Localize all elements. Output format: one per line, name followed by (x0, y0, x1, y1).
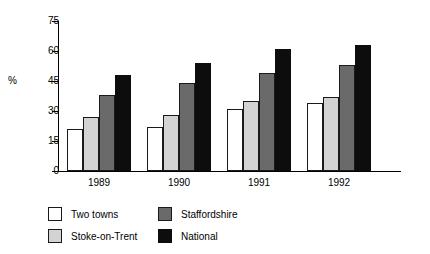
bar-group (227, 21, 291, 171)
bar-group (67, 21, 131, 171)
y-tick: 60 (0, 46, 59, 56)
y-tick-mark (52, 51, 59, 52)
bar (339, 65, 355, 171)
x-tick-label: 1992 (304, 177, 374, 188)
bar (259, 73, 275, 171)
bar (147, 127, 163, 171)
bar-group (307, 21, 371, 171)
bar (243, 101, 259, 171)
y-tick-mark (52, 141, 59, 142)
x-axis-line (58, 171, 401, 172)
legend-item: Stoke-on-Trent (48, 228, 137, 244)
y-tick: 30 (0, 106, 59, 116)
bar (83, 117, 99, 171)
y-tick: 15 (0, 136, 59, 146)
y-axis-line (58, 21, 59, 172)
y-tick-mark (52, 111, 59, 112)
legend-swatch (48, 207, 62, 221)
bar (307, 103, 323, 171)
bar (323, 97, 339, 171)
legend-label: Stoke-on-Trent (71, 231, 137, 242)
legend-label: National (181, 231, 218, 242)
x-tick-label: 1990 (144, 177, 214, 188)
legend-swatch (158, 207, 172, 221)
chart-legend: Two townsStoke-on-TrentStaffordshireNati… (48, 206, 298, 248)
bar (275, 49, 291, 171)
bar (115, 75, 131, 171)
bar-chart: % 01530456075 1989199019911992 Two towns… (0, 0, 430, 254)
legend-label: Staffordshire (181, 209, 238, 220)
legend-label: Two towns (71, 209, 118, 220)
y-tick-mark (52, 81, 59, 82)
bar (227, 109, 243, 171)
bar (179, 83, 195, 171)
bar (163, 115, 179, 171)
legend-item: Staffordshire (158, 206, 238, 222)
y-tick: 75 (0, 16, 59, 26)
x-tick-label: 1991 (224, 177, 294, 188)
y-tick: 0 (0, 166, 59, 176)
bar (355, 45, 371, 171)
legend-swatch (48, 229, 62, 243)
x-tick-label: 1989 (64, 177, 134, 188)
legend-item: National (158, 228, 218, 244)
y-tick-mark (52, 171, 59, 172)
y-tick: 45 (0, 76, 59, 86)
bar (99, 95, 115, 171)
bar (67, 129, 83, 171)
bar (195, 63, 211, 171)
legend-swatch (158, 229, 172, 243)
y-tick-mark (52, 21, 59, 22)
legend-item: Two towns (48, 206, 118, 222)
bar-group (147, 21, 211, 171)
